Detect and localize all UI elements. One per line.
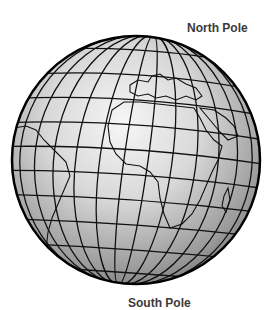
south-pole-label: South Pole	[128, 296, 191, 310]
